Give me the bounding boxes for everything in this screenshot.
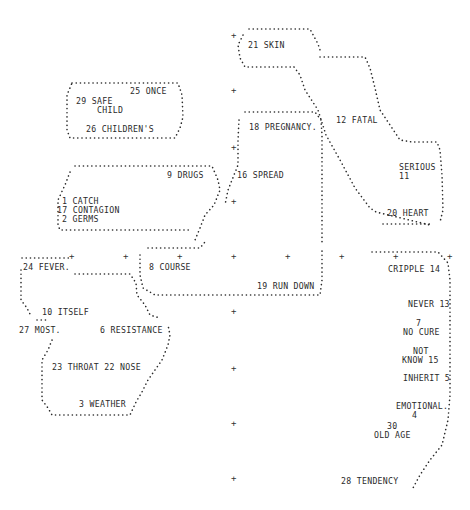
- label-childrens: 26 CHILDREN'S: [86, 124, 154, 134]
- label-tendency: 28 TENDENCY: [341, 476, 399, 486]
- label-inherit: INHERIT 5: [403, 373, 450, 383]
- grid-marker: +: [231, 364, 236, 373]
- label-course: 8 COURSE: [149, 262, 191, 272]
- grid-marker: +: [231, 143, 236, 152]
- label-nocure: NO CURE: [403, 327, 440, 337]
- label-pregnancy: 18 PREGNANCY.: [249, 122, 317, 132]
- label-emotional-num: 4: [412, 410, 417, 420]
- cluster-boundary-course: [148, 242, 205, 248]
- label-emotional: EMOTIONAL.: [396, 401, 448, 411]
- label-resistance: 6 RESISTANCE: [100, 325, 163, 335]
- grid-marker: +: [231, 31, 236, 40]
- label-child: CHILD: [97, 105, 123, 115]
- label-oldage: OLD AGE: [374, 430, 411, 440]
- grid-marker: +: [231, 197, 236, 206]
- grid-marker: +: [231, 474, 236, 483]
- grid-marker: +: [123, 252, 128, 261]
- cluster-boundary-pregnancy-left: [225, 120, 239, 205]
- grid-marker: +: [231, 252, 236, 261]
- cluster-boundary-fever-left: [21, 270, 30, 314]
- label-never: NEVER 13: [408, 299, 450, 309]
- grid-marker: +: [231, 86, 236, 95]
- label-fever: 24 FEVER.: [23, 262, 70, 272]
- grid-marker: +: [231, 419, 236, 428]
- label-know: KNOW 15: [402, 355, 439, 365]
- label-drugs: 9 DRUGS: [167, 170, 204, 180]
- label-cripple: CRIPPLE 14: [388, 264, 440, 274]
- cluster-boundary-cripple: [372, 252, 450, 488]
- grid-marker: +: [231, 307, 236, 316]
- label-heart: 20 HEART: [387, 208, 429, 218]
- label-skin: 21 SKIN: [248, 40, 285, 50]
- label-throat-nose: 23 THROAT 22 NOSE: [52, 362, 141, 372]
- grid-marker: +: [177, 252, 182, 261]
- label-itself: 10 ITSELF: [42, 307, 89, 317]
- grid-marker: +: [393, 252, 398, 261]
- grid-marker: +: [447, 252, 452, 261]
- grid-marker: +: [339, 252, 344, 261]
- cluster-boundary-serious-inner: [294, 67, 430, 225]
- label-rundown: 19 RUN DOWN: [257, 281, 315, 291]
- label-most: 27 MOST.: [19, 325, 61, 335]
- cluster-boundary-serious-outer: [320, 57, 443, 222]
- label-fatal: 12 FATAL: [336, 115, 378, 125]
- grid-marker: +: [285, 252, 290, 261]
- label-spread: 16 SPREAD: [237, 170, 284, 180]
- label-germs: 2 GERMS: [62, 214, 99, 224]
- label-serious-num: 11: [399, 171, 409, 181]
- label-weather: 3 WEATHER: [79, 399, 126, 409]
- label-once: 25 ONCE: [130, 86, 167, 96]
- grid-marker: +: [69, 252, 74, 261]
